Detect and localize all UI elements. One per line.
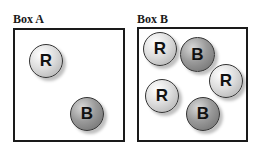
box-b-ball-r2: R <box>209 64 243 98</box>
box-b-ball-r1: R <box>143 32 177 66</box>
box-a-ball-b: B <box>70 97 104 131</box>
box-b-ball-r3: R <box>145 79 179 113</box>
box-b-ball-b1: B <box>180 37 215 72</box>
box-a-ball-r: R <box>29 44 63 78</box>
box-b-ball-b2: B <box>186 97 220 131</box>
box-a-label: Box A <box>13 12 44 27</box>
box-b-label: Box B <box>137 12 168 27</box>
box-a <box>13 28 125 142</box>
